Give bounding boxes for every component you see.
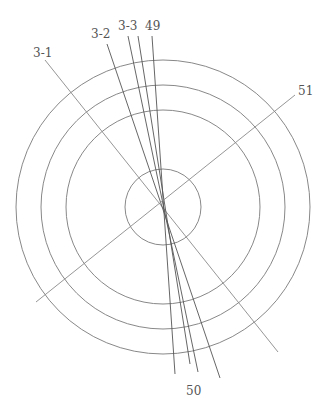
label-3-2: 3-2 — [91, 27, 110, 41]
radial-lines — [36, 36, 295, 378]
outer-ring — [16, 60, 310, 354]
ring-diagram: 3-1 3-2 3-3 49 51 50 — [0, 0, 329, 414]
line-49 — [152, 36, 175, 374]
inner-ring — [66, 110, 260, 304]
label-50: 50 — [186, 384, 201, 398]
label-51: 51 — [298, 84, 313, 98]
label-3-1: 3-1 — [33, 46, 52, 60]
middle-ring — [41, 85, 285, 329]
concentric-rings — [16, 60, 310, 354]
label-3-3: 3-3 — [118, 19, 137, 33]
line-51 — [36, 95, 295, 302]
label-49: 49 — [145, 19, 160, 33]
core-circle — [125, 169, 201, 245]
